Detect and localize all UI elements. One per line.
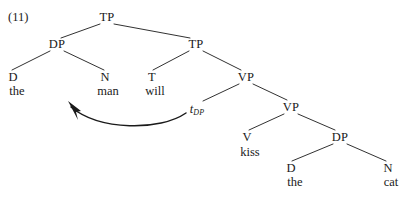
root-tp-to-inner-tp bbox=[114, 24, 190, 38]
trace-subscript: DP bbox=[193, 108, 204, 117]
subject-dp-to-d bbox=[12, 51, 50, 70]
tree-lines-layer bbox=[0, 0, 409, 202]
node-det-the-subject: D bbox=[8, 71, 17, 84]
subject-dp-to-n bbox=[64, 51, 104, 70]
movement-arrow-head bbox=[68, 101, 81, 120]
node-inner-tp: TP bbox=[189, 38, 204, 51]
example-number: (11) bbox=[8, 11, 28, 24]
lower-vp-to-dp bbox=[298, 114, 335, 130]
node-det-the-object: D bbox=[286, 162, 295, 175]
node-verb-kiss: V bbox=[242, 131, 251, 144]
node-subject-dp: DP bbox=[49, 38, 65, 51]
root-tp-to-subject-dp bbox=[61, 24, 100, 38]
word-cat: cat bbox=[384, 176, 399, 189]
inner-tp-to-vp bbox=[203, 51, 241, 70]
node-lower-vp: VP bbox=[283, 101, 299, 114]
word-the-object: the bbox=[287, 176, 302, 189]
object-dp-to-d bbox=[292, 144, 333, 161]
movement-arrow-group bbox=[68, 101, 186, 126]
node-upper-vp: VP bbox=[238, 71, 254, 84]
node-tense-will: T bbox=[148, 71, 156, 84]
upper-vp-to-lower-vp bbox=[253, 84, 287, 100]
node-noun-man: N bbox=[100, 71, 109, 84]
node-trace-dp: tDP bbox=[190, 103, 205, 116]
syntax-tree-figure: (11) TP DP TP D N T VP tDP VP V DP D N t… bbox=[0, 0, 409, 202]
node-root-tp: TP bbox=[100, 11, 115, 24]
lower-vp-to-v bbox=[249, 114, 284, 130]
word-the-subject: the bbox=[9, 85, 24, 98]
movement-arrow-curve bbox=[71, 107, 186, 126]
node-object-dp: DP bbox=[332, 131, 348, 144]
object-dp-to-n bbox=[347, 144, 386, 161]
inner-tp-to-t bbox=[153, 51, 189, 70]
word-man: man bbox=[97, 85, 119, 98]
upper-vp-to-trace bbox=[203, 84, 239, 101]
word-will: will bbox=[145, 85, 164, 98]
word-kiss: kiss bbox=[240, 146, 259, 159]
node-noun-cat: N bbox=[383, 162, 392, 175]
